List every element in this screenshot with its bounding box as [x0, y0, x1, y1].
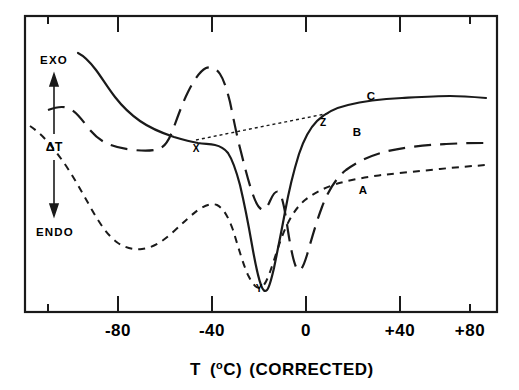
x-tick-label-plus-40: +40	[385, 321, 415, 340]
delta-t-label: ΔT	[46, 140, 63, 154]
curve-label-b: B	[353, 126, 361, 138]
point-label-x: X	[193, 143, 200, 154]
x-axis-title-celsius: C)	[223, 360, 242, 379]
exo-label: EXO	[40, 54, 68, 66]
curve-label-a: A	[359, 184, 367, 196]
x-axis-title: T(oC)(CORRECTED)	[190, 359, 374, 379]
x-tick-label-plus-80: +80	[455, 321, 485, 340]
x-axis-title-symbol: T	[190, 360, 201, 379]
svg-text:T(oC)(CORRECTED): T(oC)(CORRECTED)	[190, 359, 374, 379]
x-tick-label-minus-80: -80	[105, 321, 131, 340]
x-axis-title-corrected: (CORRECTED)	[249, 360, 374, 379]
baseline-x-z	[196, 113, 330, 140]
curve-c-path	[78, 53, 486, 291]
dta-thermogram-figure: EXO ΔT ENDO -80 -40 0 +40 +80 T(oC)(CORR…	[0, 0, 519, 390]
curve-label-c: C	[367, 90, 375, 102]
point-label-y: Y	[256, 283, 263, 294]
degree-symbol: o	[216, 359, 223, 371]
plot-frame	[25, 16, 497, 312]
endo-label: ENDO	[36, 226, 74, 238]
x-tick-label-zero: 0	[301, 321, 311, 340]
chart-canvas: EXO ΔT ENDO -80 -40 0 +40 +80 T(oC)(CORR…	[0, 0, 519, 390]
point-label-z: Z	[320, 117, 326, 128]
x-tick-label-minus-40: -40	[199, 321, 225, 340]
x-axis-ticks-bottom	[48, 296, 470, 312]
x-axis-ticks-top	[48, 16, 470, 32]
